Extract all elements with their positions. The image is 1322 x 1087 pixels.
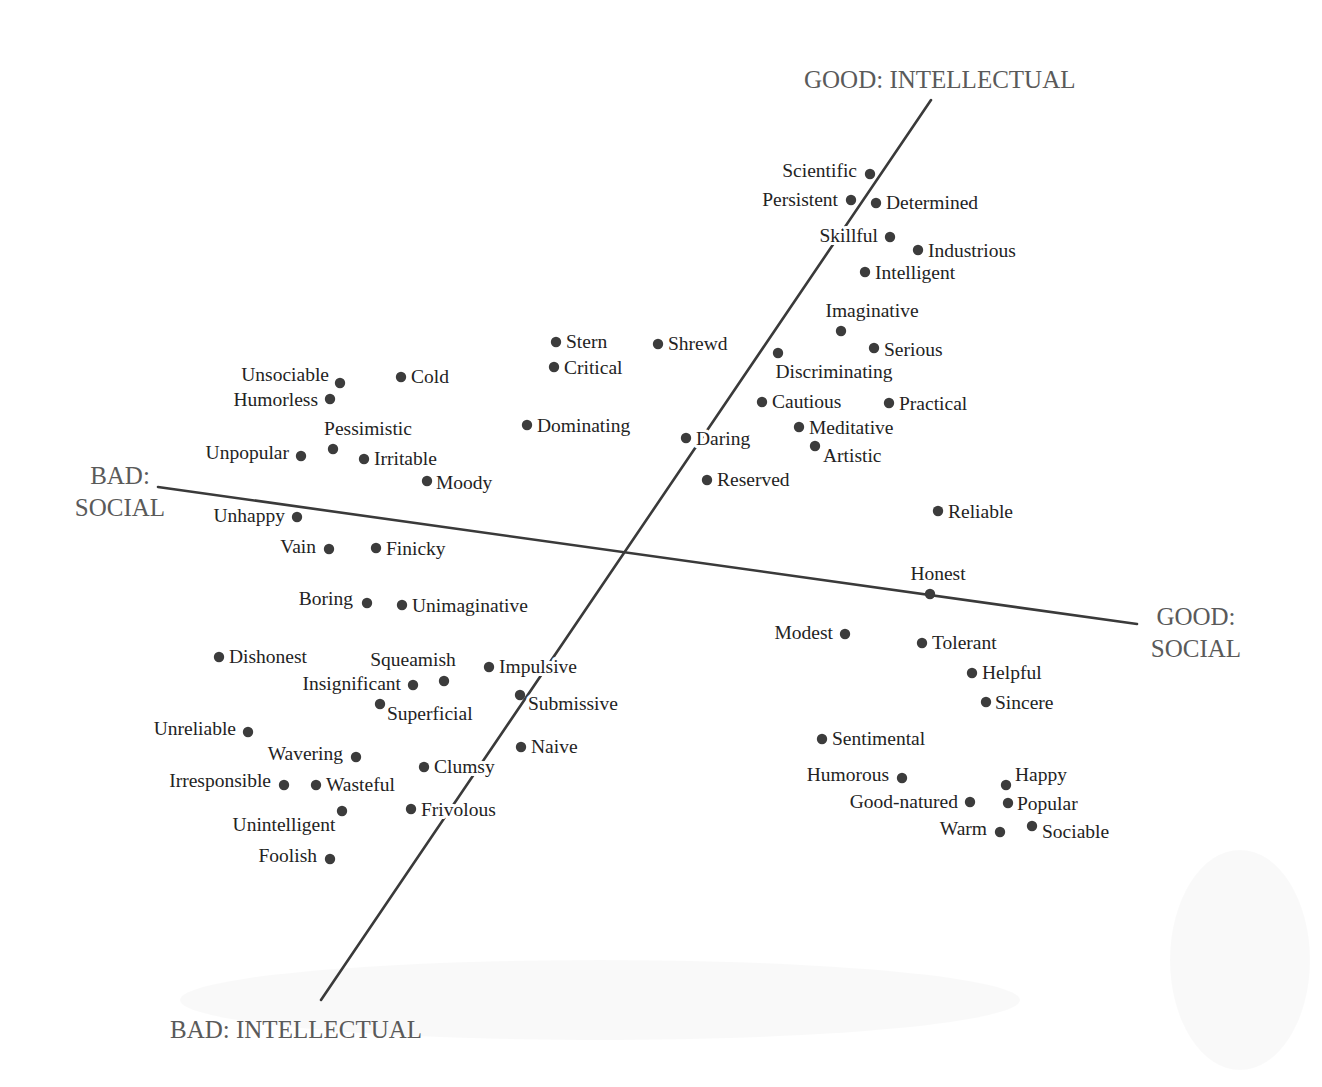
label-dishonest: Dishonest bbox=[229, 646, 308, 667]
point-meditative bbox=[794, 422, 804, 432]
point-clumsy bbox=[419, 762, 429, 772]
label-practical: Practical bbox=[899, 393, 968, 414]
label-humorless: Humorless bbox=[234, 389, 319, 410]
point-honest bbox=[925, 589, 935, 599]
point-happy bbox=[1001, 780, 1011, 790]
bad-social-axis-label: BAD: bbox=[90, 462, 150, 489]
point-dishonest bbox=[214, 652, 224, 662]
point-insignificant bbox=[408, 680, 418, 690]
label-meditative: Meditative bbox=[809, 417, 893, 438]
trait-map-chart: ScientificPersistentDeterminedSkillfulIn… bbox=[0, 0, 1322, 1087]
label-cold: Cold bbox=[411, 366, 449, 387]
label-unhappy: Unhappy bbox=[214, 505, 286, 526]
label-irresponsible: Irresponsible bbox=[169, 770, 271, 791]
point-imaginative bbox=[836, 326, 846, 336]
label-clumsy: Clumsy bbox=[434, 756, 495, 777]
label-unsociable: Unsociable bbox=[241, 364, 329, 385]
point-serious bbox=[869, 343, 879, 353]
label-frivolous: Frivolous bbox=[421, 799, 496, 820]
axis-labels-layer: GOOD: INTELLECTUALBAD: INTELLECTUALBAD:S… bbox=[75, 66, 1241, 1043]
point-unintelligent bbox=[337, 806, 347, 816]
good-social-axis-label: GOOD: bbox=[1156, 603, 1235, 630]
point-finicky bbox=[371, 543, 381, 553]
point-irritable bbox=[359, 454, 369, 464]
label-superficial: Superficial bbox=[387, 703, 473, 724]
point-unimaginative bbox=[397, 600, 407, 610]
point-submissive bbox=[515, 690, 525, 700]
label-vain: Vain bbox=[280, 536, 316, 557]
label-boring: Boring bbox=[299, 588, 353, 609]
label-naive: Naive bbox=[531, 736, 578, 757]
label-cautious: Cautious bbox=[772, 391, 841, 412]
label-wavering: Wavering bbox=[268, 743, 344, 764]
label-sentimental: Sentimental bbox=[832, 728, 926, 749]
label-stern: Stern bbox=[566, 331, 607, 352]
point-intelligent bbox=[860, 267, 870, 277]
label-warm: Warm bbox=[940, 818, 987, 839]
label-artistic: Artistic bbox=[823, 445, 882, 466]
label-submissive: Submissive bbox=[528, 693, 618, 714]
label-daring: Daring bbox=[696, 428, 750, 449]
point-persistent bbox=[846, 195, 856, 205]
label-helpful: Helpful bbox=[982, 662, 1042, 683]
point-industrious bbox=[913, 245, 923, 255]
point-vain bbox=[324, 544, 334, 554]
label-squeamish: Squeamish bbox=[370, 649, 456, 670]
label-discriminating: Discriminating bbox=[776, 361, 893, 382]
label-industrious: Industrious bbox=[928, 240, 1016, 261]
bad-social-axis-label: SOCIAL bbox=[75, 494, 165, 521]
point-critical bbox=[549, 362, 559, 372]
point-tolerant bbox=[917, 638, 927, 648]
label-skillful: Skillful bbox=[819, 225, 878, 246]
label-imaginative: Imaginative bbox=[825, 300, 918, 321]
point-artistic bbox=[810, 441, 820, 451]
point-skillful bbox=[885, 232, 895, 242]
point-unhappy bbox=[292, 512, 302, 522]
point-modest bbox=[840, 629, 850, 639]
good-intellectual-axis-label: GOOD: INTELLECTUAL bbox=[804, 66, 1075, 93]
label-insignificant: Insignificant bbox=[302, 673, 401, 694]
point-scientific bbox=[865, 169, 875, 179]
point-reserved bbox=[702, 475, 712, 485]
point-irresponsible bbox=[279, 780, 289, 790]
chart-canvas: ScientificPersistentDeterminedSkillfulIn… bbox=[0, 0, 1322, 1087]
bad-intellectual-axis-label: BAD: INTELLECTUAL bbox=[170, 1016, 422, 1043]
label-good-natured: Good-natured bbox=[850, 791, 959, 812]
label-critical: Critical bbox=[564, 357, 623, 378]
point-discriminating bbox=[773, 348, 783, 358]
label-unpopular: Unpopular bbox=[206, 442, 290, 463]
label-popular: Popular bbox=[1017, 793, 1078, 814]
label-reserved: Reserved bbox=[717, 469, 790, 490]
label-impulsive: Impulsive bbox=[499, 656, 577, 677]
point-stern bbox=[551, 337, 561, 347]
point-daring bbox=[681, 433, 691, 443]
point-popular bbox=[1003, 798, 1013, 808]
point-pessimistic bbox=[328, 444, 338, 454]
point-shrewd bbox=[653, 339, 663, 349]
label-unintelligent: Unintelligent bbox=[233, 814, 336, 835]
point-foolish bbox=[325, 854, 335, 864]
label-irritable: Irritable bbox=[374, 448, 437, 469]
label-sincere: Sincere bbox=[995, 692, 1053, 713]
label-determined: Determined bbox=[886, 192, 978, 213]
point-determined bbox=[871, 198, 881, 208]
label-tolerant: Tolerant bbox=[932, 632, 997, 653]
point-moody bbox=[422, 476, 432, 486]
point-unpopular bbox=[296, 451, 306, 461]
point-unsociable bbox=[335, 378, 345, 388]
label-sociable: Sociable bbox=[1042, 821, 1109, 842]
label-shrewd: Shrewd bbox=[668, 333, 728, 354]
label-finicky: Finicky bbox=[386, 538, 446, 559]
label-wasteful: Wasteful bbox=[326, 774, 395, 795]
label-honest: Honest bbox=[910, 563, 966, 584]
label-persistent: Persistent bbox=[762, 189, 838, 210]
label-happy: Happy bbox=[1015, 764, 1067, 785]
label-unimaginative: Unimaginative bbox=[412, 595, 528, 616]
label-scientific: Scientific bbox=[782, 160, 857, 181]
label-dominating: Dominating bbox=[537, 415, 630, 436]
point-cold bbox=[396, 372, 406, 382]
point-practical bbox=[884, 398, 894, 408]
label-intelligent: Intelligent bbox=[875, 262, 956, 283]
point-superficial bbox=[375, 699, 385, 709]
point-helpful bbox=[967, 668, 977, 678]
